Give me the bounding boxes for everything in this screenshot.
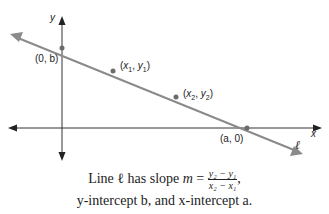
y-axis-down-arrow-icon xyxy=(59,152,66,161)
point-1 xyxy=(111,69,116,74)
caption-line-1: Line ℓ has slope m = y₂ − y₁x₂ − x₁, xyxy=(0,168,329,191)
label-point-2: (x2, y2) xyxy=(183,88,213,101)
x-axis-left-arrow-icon xyxy=(8,125,17,132)
caption-line-2: y-intercept b, and x-intercept a. xyxy=(0,192,329,209)
y-axis-label: y xyxy=(50,12,55,23)
slope-fraction: y₂ − y₁x₂ − x₁ xyxy=(208,168,238,191)
line-left-arrow-icon xyxy=(10,32,23,42)
fraction-denominator: x₂ − x₁ xyxy=(208,180,238,191)
x-axis-label: x xyxy=(311,128,316,139)
line-label: ℓ xyxy=(295,138,300,153)
y-axis-up-arrow-icon xyxy=(59,16,66,25)
slope-symbol: m xyxy=(183,171,193,186)
label-y-intercept: (0, b) xyxy=(35,53,58,64)
point-2 xyxy=(174,95,179,100)
fraction-numerator: y₂ − y₁ xyxy=(208,168,238,180)
line-l xyxy=(18,38,294,150)
label-x-intercept: (a, 0) xyxy=(220,133,243,144)
point-y-intercept xyxy=(60,46,65,51)
caption-text: Line ℓ has slope xyxy=(88,171,183,186)
comma: , xyxy=(237,171,241,186)
equals: = xyxy=(193,171,208,186)
point-x-intercept xyxy=(245,126,250,131)
label-point-1: (x1, y1) xyxy=(120,60,150,73)
